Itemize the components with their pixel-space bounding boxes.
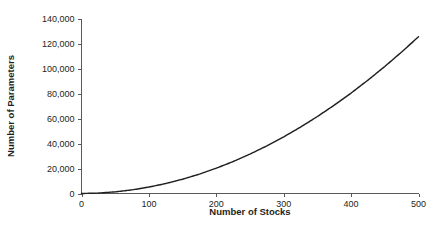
y-axis-ticks: [78, 20, 82, 195]
x-tick-label: 500: [411, 199, 426, 209]
y-tick-label: 120,000: [42, 39, 75, 49]
x-tick-label: 400: [344, 199, 359, 209]
y-tick-label: 140,000: [42, 14, 75, 24]
x-tick-label: 100: [141, 199, 156, 209]
x-tick-label: 0: [79, 199, 84, 209]
y-tick-label: 100,000: [42, 64, 75, 74]
data-series-line: [82, 37, 419, 194]
x-axis-title: Number of Stocks: [209, 206, 290, 217]
y-tick-label: 80,000: [47, 89, 75, 99]
y-axis-title: Number of Parameters: [5, 55, 16, 157]
y-tick-label: 60,000: [47, 114, 75, 124]
chart-container: 020,00040,00060,00080,000100,000120,0001…: [0, 0, 442, 234]
y-axis-tick-labels: 020,00040,00060,00080,000100,000120,0001…: [42, 14, 75, 199]
x-axis-ticks: [83, 194, 420, 198]
y-tick-label: 20,000: [47, 164, 75, 174]
y-tick-label: 40,000: [47, 139, 75, 149]
line-chart: 020,00040,00060,00080,000100,000120,0001…: [0, 0, 442, 234]
y-tick-label: 0: [69, 189, 74, 199]
